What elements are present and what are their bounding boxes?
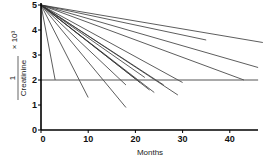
y-axis-title: 1 Creatinine × 10³ (8, 30, 28, 100)
x-tick-label: 30 (178, 134, 188, 144)
x-tick-label: 10 (83, 134, 93, 144)
series-line (41, 5, 154, 93)
x-ticks: 010203040 (40, 130, 234, 144)
y-ticks: 012345 (32, 0, 41, 135)
data-lines (41, 5, 263, 108)
y-axis-denominator: Creatinine (19, 59, 28, 96)
series-line (41, 5, 178, 95)
y-tick-label: 4 (32, 25, 37, 35)
y-axis-numerator: 1 (8, 75, 17, 80)
y-axis-suffix: × 10³ (10, 30, 19, 49)
x-tick-label: 20 (130, 134, 140, 144)
x-tick-label: 40 (225, 134, 235, 144)
chart: 012345 010203040 Months 1 Creatinine × 1… (0, 0, 270, 159)
y-tick-label: 1 (32, 100, 37, 110)
series-line (41, 5, 88, 98)
y-tick-label: 3 (32, 50, 37, 60)
x-tick-label: 0 (40, 134, 45, 144)
y-tick-label: 5 (32, 0, 37, 10)
x-axis-title: Months (137, 148, 163, 157)
y-tick-label: 0 (32, 125, 37, 135)
y-tick-label: 2 (32, 75, 37, 85)
series-line (41, 5, 244, 80)
